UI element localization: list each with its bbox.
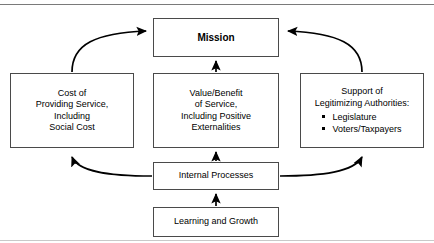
bottom-divider-rule: [0, 240, 434, 241]
node-learning-line-1: Learning and Growth: [157, 216, 275, 228]
node-value-line-4: Externalities: [157, 122, 275, 134]
node-support-line-2: Legitimizing Authorities:: [304, 98, 420, 110]
edge-support-to-mission: [288, 31, 362, 72]
node-internal-processes: Internal Processes: [153, 162, 279, 190]
node-support-bullet-1: Legislature: [332, 112, 376, 122]
node-cost-line-3: Including: [14, 111, 130, 123]
edge-internal-to-cost: [72, 157, 152, 176]
node-value-line-2: of Service,: [157, 99, 275, 111]
square-bullet-icon: [322, 127, 325, 130]
list-item: Voters/Taxpayers: [322, 123, 401, 135]
node-internal-line-1: Internal Processes: [157, 170, 275, 182]
node-learning-and-growth: Learning and Growth: [153, 207, 279, 237]
strategy-map-figure: Mission Cost of Providing Service, Inclu…: [0, 0, 434, 243]
node-value-benefit-of-service: Value/Benefit of Service, Including Posi…: [153, 73, 279, 148]
node-cost-line-2: Providing Service,: [14, 99, 130, 111]
top-divider-rule: [0, 4, 434, 5]
node-value-line-3: Including Positive: [157, 111, 275, 123]
node-cost-of-providing-service: Cost of Providing Service, Including Soc…: [10, 73, 134, 148]
node-support-of-legitimizing-authorities: Support of Legitimizing Authorities: Leg…: [300, 73, 424, 148]
list-item: Legislature: [322, 111, 401, 123]
node-support-bullet-2: Voters/Taxpayers: [332, 124, 401, 134]
node-support-line-1: Support of: [304, 86, 420, 98]
node-support-bullet-list: Legislature Voters/Taxpayers: [322, 111, 401, 135]
node-cost-line-1: Cost of: [14, 88, 130, 100]
node-mission-line-1: Mission: [157, 32, 275, 44]
node-cost-line-4: Social Cost: [14, 122, 130, 134]
edge-internal-to-support: [280, 157, 362, 176]
square-bullet-icon: [322, 115, 325, 118]
edge-cost-to-mission: [72, 31, 146, 72]
node-value-line-1: Value/Benefit: [157, 88, 275, 100]
node-mission: Mission: [153, 18, 279, 57]
